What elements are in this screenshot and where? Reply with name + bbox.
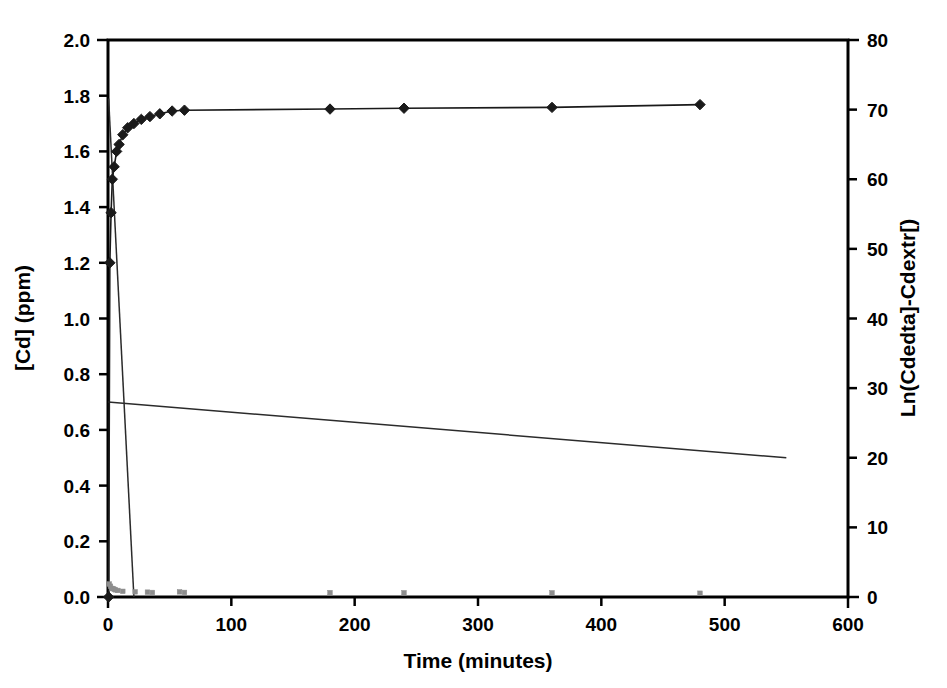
series-lines-group [109, 105, 700, 597]
y-tick-label: 0.4 [64, 476, 91, 497]
y-tick-label: 1.8 [64, 86, 90, 107]
y2-tick-label: 0 [867, 587, 878, 608]
y2-tick-label: 80 [867, 30, 888, 51]
data-point-square [116, 588, 121, 593]
y-axis-title: [Cd] (ppm) [11, 265, 34, 371]
y2-tick-label: 20 [867, 448, 888, 469]
data-point-diamond [399, 103, 409, 113]
y-tick-label: 1.2 [64, 253, 90, 274]
data-point-diamond [105, 258, 115, 268]
data-point-square [177, 590, 182, 595]
data-point-square [121, 589, 126, 594]
series-markers-group [103, 99, 705, 602]
shallow-long-term-fit [108, 402, 786, 458]
data-point-square [133, 590, 138, 595]
y-tick-label: 1.6 [64, 141, 90, 162]
y-tick-label: 0.2 [64, 531, 90, 552]
y-axis-tick-labels: 0.00.20.40.60.81.01.21.41.61.82.0 [64, 30, 91, 608]
chart-canvas: 0.00.20.40.60.81.01.21.41.61.82.0 010203… [0, 0, 947, 688]
x-tick-label: 0 [103, 614, 114, 635]
data-point-square [145, 590, 150, 595]
chart-figure: 0.00.20.40.60.81.01.21.41.61.82.0 010203… [0, 0, 947, 688]
y-axis-ticks [97, 40, 108, 597]
y-tick-label: 0.8 [64, 364, 90, 385]
data-point-diamond [695, 99, 705, 109]
data-point-square [150, 590, 155, 595]
y-tick-label: 1.0 [64, 309, 90, 330]
x-tick-label: 300 [462, 614, 494, 635]
x-axis-title: Time (minutes) [404, 649, 553, 672]
x-axis-ticks [108, 597, 848, 608]
y2-axis-title: Ln(Cdedta]-Cdextr[) [896, 219, 919, 417]
y2-tick-label: 70 [867, 100, 888, 121]
y-tick-label: 0.0 [64, 587, 90, 608]
y2-axis-tick-labels: 01020304050607080 [867, 30, 888, 608]
x-tick-label: 100 [215, 614, 247, 635]
y2-tick-label: 50 [867, 239, 888, 260]
data-point-diamond [547, 102, 557, 112]
data-point-square [402, 590, 407, 595]
y2-axis-ticks [848, 40, 859, 597]
plot-border [108, 40, 848, 597]
x-tick-label: 200 [339, 614, 371, 635]
data-point-diamond [325, 104, 335, 114]
series-line-cd-concentration [109, 105, 700, 597]
data-point-diamond [167, 106, 177, 116]
data-point-diamond [103, 592, 113, 602]
data-point-square [182, 590, 187, 595]
x-axis-tick-labels: 0100200300400500600 [103, 614, 864, 635]
data-point-diamond [179, 105, 189, 115]
y2-tick-label: 60 [867, 169, 888, 190]
data-point-diamond [109, 162, 119, 172]
y-tick-label: 0.6 [64, 420, 90, 441]
x-tick-label: 600 [832, 614, 864, 635]
y2-tick-label: 10 [867, 517, 888, 538]
y2-tick-label: 40 [867, 309, 888, 330]
x-tick-label: 400 [585, 614, 617, 635]
data-point-square [328, 590, 333, 595]
data-point-square [550, 591, 555, 596]
fit-lines-group [108, 98, 786, 597]
y2-tick-label: 30 [867, 378, 888, 399]
plot-frame [108, 40, 848, 597]
y-tick-label: 1.4 [64, 197, 91, 218]
data-point-square [698, 591, 703, 596]
y-tick-label: 2.0 [64, 30, 90, 51]
x-tick-label: 500 [709, 614, 741, 635]
data-point-diamond [155, 109, 165, 119]
